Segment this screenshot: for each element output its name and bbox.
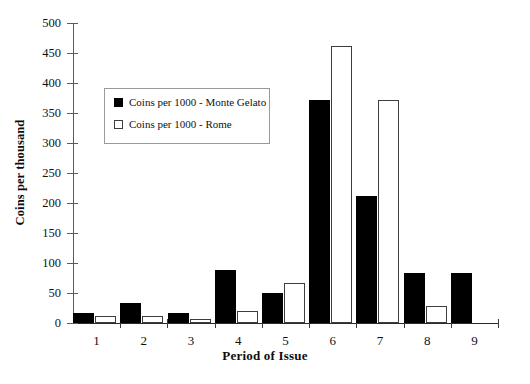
x-axis-tick-label: 2 <box>129 333 159 349</box>
x-axis-tick-label: 7 <box>365 333 395 349</box>
bar-chart: Coins per thousand 123456789 05010015020… <box>0 0 530 384</box>
x-axis-tick-label: 5 <box>271 333 301 349</box>
x-axis-tick-label: 9 <box>459 333 489 349</box>
legend-label: Coins per 1000 - Rome <box>129 119 232 130</box>
bar <box>331 46 352 323</box>
bar <box>356 196 377 323</box>
y-axis-tick-label: 100 <box>21 257 61 270</box>
y-axis-tick <box>67 143 78 144</box>
y-axis-tick-label: 200 <box>21 197 61 210</box>
legend-swatch-outlined-square <box>114 120 123 129</box>
bar <box>168 313 189 323</box>
bar <box>237 311 258 323</box>
y-axis-tick-label: 50 <box>21 287 61 300</box>
legend: Coins per 1000 - Monte Gelato Coins per … <box>104 88 270 144</box>
bar <box>95 316 116 323</box>
y-axis-tick <box>67 293 78 294</box>
bar <box>404 273 425 323</box>
x-axis-title: Period of Issue <box>0 348 530 364</box>
y-axis-tick <box>67 23 78 24</box>
bar <box>142 316 163 323</box>
legend-swatch-filled-square <box>114 98 123 107</box>
bar <box>73 313 94 323</box>
y-axis-tick-label: 400 <box>21 77 61 90</box>
legend-item-monte-gelato: Coins per 1000 - Monte Gelato <box>114 97 266 108</box>
bar <box>426 306 447 323</box>
x-axis-tick-label: 1 <box>82 333 112 349</box>
bar <box>309 100 330 323</box>
bar <box>120 303 141 323</box>
x-axis-tick-label: 4 <box>223 333 253 349</box>
bar <box>262 293 283 323</box>
y-axis-tick <box>67 323 78 324</box>
y-axis-tick-label: 0 <box>21 317 61 330</box>
y-axis-tick-label: 350 <box>21 107 61 120</box>
bar <box>215 270 236 323</box>
legend-item-rome: Coins per 1000 - Rome <box>114 119 232 130</box>
y-axis-tick <box>67 83 78 84</box>
bar <box>190 319 211 323</box>
y-axis-tick-label: 250 <box>21 167 61 180</box>
y-axis-tick <box>67 173 78 174</box>
y-axis-tick-label: 450 <box>21 47 61 60</box>
y-axis-tick <box>67 263 78 264</box>
y-axis-tick-label: 300 <box>21 137 61 150</box>
bar <box>378 100 399 323</box>
bar <box>451 273 472 323</box>
y-axis-tick-label: 150 <box>21 227 61 240</box>
x-axis-tick-label: 6 <box>318 333 348 349</box>
x-axis-tick-label: 8 <box>412 333 442 349</box>
x-axis-tick-label: 3 <box>176 333 206 349</box>
bar <box>284 283 305 323</box>
y-axis-tick <box>67 113 78 114</box>
y-axis-tick <box>67 203 78 204</box>
y-axis-tick-label: 500 <box>21 17 61 30</box>
x-axis-tick <box>498 319 499 328</box>
legend-label: Coins per 1000 - Monte Gelato <box>129 97 266 108</box>
y-axis-tick <box>67 233 78 234</box>
plot-area: 123456789 <box>73 23 498 323</box>
x-axis-line <box>73 323 498 324</box>
y-axis-tick <box>67 53 78 54</box>
